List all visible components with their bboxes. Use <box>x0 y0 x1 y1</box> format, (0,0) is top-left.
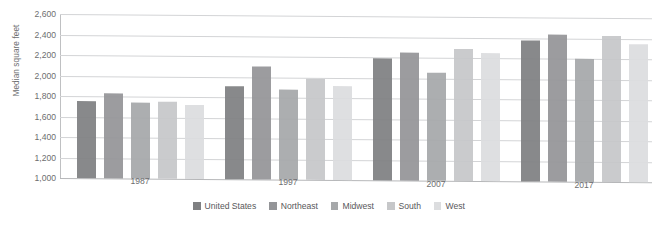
bar <box>521 40 540 181</box>
bar <box>400 53 419 181</box>
bar <box>225 86 244 179</box>
y-axis-tick-label: 1,400 <box>22 132 56 142</box>
bar <box>279 90 298 180</box>
bar <box>575 59 594 182</box>
bar <box>373 58 392 181</box>
bar <box>602 36 621 182</box>
bar-group <box>373 16 500 181</box>
y-axis-title: Median square feet <box>12 1 21 121</box>
y-axis-tick-label: 1,200 <box>22 153 56 163</box>
legend-item: Midwest <box>331 201 374 211</box>
bar <box>481 53 500 181</box>
bar <box>158 101 177 179</box>
legend-label: South <box>399 201 421 211</box>
bar <box>252 67 271 180</box>
legend-swatch <box>331 202 339 210</box>
bar <box>185 105 204 179</box>
legend-swatch <box>387 202 395 210</box>
legend-label: United States <box>205 201 257 211</box>
y-axis-tick-label: 2,400 <box>22 30 56 40</box>
bar <box>104 94 123 179</box>
y-axis-tick-label: 2,600 <box>22 9 56 19</box>
x-axis-tick-labels: 1987199720072017 <box>60 176 652 192</box>
chart-legend: United StatesNortheastMidwestSouthWest <box>0 201 658 211</box>
legend-label: Northeast <box>281 201 318 211</box>
legend-item: South <box>387 201 421 211</box>
y-axis-tick-label: 1,600 <box>22 112 56 122</box>
legend-swatch <box>434 202 442 210</box>
bar-group <box>521 17 648 182</box>
legend-label: Midwest <box>342 201 374 211</box>
legend-swatch <box>193 202 201 210</box>
y-axis-tick-labels: 2,6002,4002,2002,0001,8001,6001,4001,200… <box>22 0 56 225</box>
bar <box>306 79 325 180</box>
bar <box>454 49 473 181</box>
bar-chart: Median square feet 2,6002,4002,2002,0001… <box>0 0 658 225</box>
x-axis-tick-label: 1987 <box>95 176 185 186</box>
legend-item: Northeast <box>269 201 318 211</box>
legend-item: United States <box>193 201 256 211</box>
bar-group <box>77 14 204 179</box>
y-axis-tick-label: 1,000 <box>22 173 56 183</box>
legend-item: West <box>434 201 465 211</box>
bar <box>131 103 150 179</box>
x-axis-tick-label: 2007 <box>391 179 481 189</box>
bar <box>427 73 446 181</box>
y-axis-tick-label: 1,800 <box>22 91 56 101</box>
bar-group <box>225 15 352 180</box>
bar <box>77 101 96 179</box>
plot-skew-wrapper <box>60 14 652 182</box>
legend-label: West <box>445 201 464 211</box>
y-axis-tick-label: 2,000 <box>22 71 56 81</box>
bar <box>548 35 567 182</box>
bar <box>629 44 648 183</box>
x-axis-tick-label: 1997 <box>243 177 333 187</box>
bars-layer <box>60 14 652 182</box>
x-axis-tick-label: 2017 <box>539 180 629 190</box>
y-axis-tick-label: 2,200 <box>22 50 56 60</box>
plot-area <box>60 14 652 178</box>
bar <box>333 86 352 180</box>
legend-swatch <box>269 202 277 210</box>
